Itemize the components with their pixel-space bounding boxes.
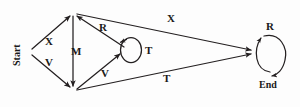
edge-label-r-end-loop: R [266, 21, 274, 32]
node-label-end: End [259, 80, 277, 90]
edge-label-v-start-bottom: V [45, 57, 53, 68]
edge-end-self-loop-right [264, 35, 286, 76]
node-label-start: Start [12, 44, 22, 66]
edge-label-x-top-end: X [167, 13, 175, 24]
edge-label-v-bottom-middle: V [101, 68, 109, 79]
edge-label-t-middle-loop: T [145, 45, 153, 56]
edge-label-t-bottom-end: T [163, 73, 171, 84]
edge-label-m-top-bottom: M [71, 46, 82, 57]
edge-end-self-loop-left [256, 38, 270, 72]
edge-label-x-start-top: X [45, 36, 53, 47]
state-transition-diagram: Start End X V M R V T X T R [0, 0, 300, 107]
edge-bottom-middle [77, 54, 120, 89]
edge-label-r-middle-top: R [99, 22, 107, 33]
